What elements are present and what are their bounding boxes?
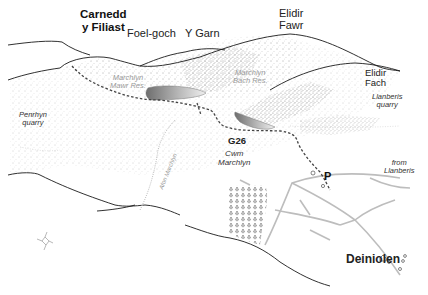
label-cwm-marchlyn: Cwm Marchlyn: [218, 150, 250, 168]
label-from-llanberis: from Llanberis: [384, 159, 414, 176]
label-elidir-fach: Elidir Fach: [365, 68, 386, 89]
label-line: Llanberis: [384, 167, 414, 175]
label-line: Fawr: [279, 19, 303, 31]
label-marchlyn-mawr-res: Marchlyn Mawr Res.: [110, 74, 146, 91]
label-elidir-fawr: Elidir Fawr: [279, 7, 303, 31]
label-line: quarry: [19, 119, 47, 127]
label-penrhyn-quarry: Penrhyn quarry: [19, 111, 47, 128]
label-line: Elidir: [279, 7, 303, 19]
label-line: Fach: [365, 78, 386, 88]
label-llanberis-quarry: Llanberis quarry: [372, 93, 402, 110]
label-line: Mawr Res.: [110, 82, 146, 90]
label-foel-goch: Foel-goch: [127, 27, 176, 39]
label-line: Carnedd: [80, 8, 127, 21]
forest: [228, 185, 267, 245]
label-line: y Filiast: [80, 21, 127, 34]
label-carnedd-y-filiast: Carnedd y Filiast: [80, 8, 127, 33]
compass-rose-icon: [37, 232, 53, 250]
label-deiniolen: Deiniolen: [346, 253, 400, 266]
label-line: Marchlyn: [218, 159, 250, 168]
label-route-g26: G26: [228, 136, 246, 146]
parking-icon: P: [324, 170, 331, 182]
label-line: Bach Res.: [233, 77, 268, 85]
label-y-garn: Y Garn: [185, 27, 220, 39]
label-marchlyn-bach-res: Marchlyn Bach Res.: [233, 69, 268, 86]
map-illustration: [0, 0, 428, 295]
label-line: quarry: [372, 101, 402, 109]
